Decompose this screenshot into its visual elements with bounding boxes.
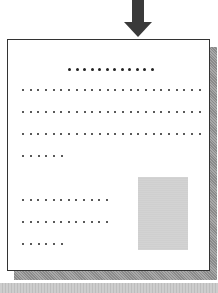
text-line — [22, 132, 201, 136]
document-page — [7, 39, 210, 271]
title-line — [68, 67, 154, 71]
text-line — [22, 242, 63, 246]
text-line — [22, 198, 108, 202]
down-arrow-icon — [124, 0, 152, 38]
text-line — [22, 110, 201, 114]
text-line — [22, 220, 108, 224]
bottom-bar — [0, 283, 218, 293]
image-placeholder — [138, 177, 188, 250]
text-line — [22, 88, 201, 92]
text-line — [22, 154, 63, 158]
